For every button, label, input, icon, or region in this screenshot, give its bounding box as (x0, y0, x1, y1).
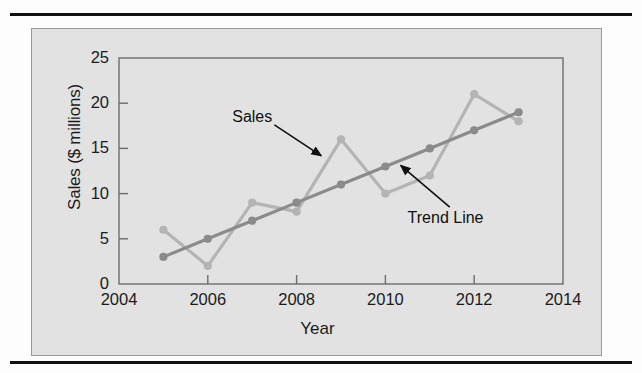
x-tick-label: 2010 (350, 290, 420, 309)
data-point (515, 108, 523, 116)
data-point (248, 217, 256, 225)
data-point (337, 135, 345, 143)
y-tick-label: 25 (63, 48, 109, 67)
data-point (381, 162, 389, 170)
annotation-label-0: Sales (232, 108, 272, 126)
data-point (204, 235, 212, 243)
x-tick-label: 2012 (439, 290, 509, 309)
data-point (470, 90, 478, 98)
plot-frame (119, 58, 563, 284)
x-tick-label: 2004 (84, 290, 154, 309)
data-point (159, 253, 167, 261)
data-point (159, 226, 167, 234)
annotation-label-1: Trend Line (408, 209, 484, 227)
bottom-rule (10, 361, 632, 364)
x-tick-label: 2006 (173, 290, 243, 309)
figure-page: Sales ($ millions) Year 0510152025200420… (0, 0, 642, 373)
data-point (426, 144, 434, 152)
x-tick-label: 2014 (528, 290, 598, 309)
data-point (381, 190, 389, 198)
data-point (515, 117, 523, 125)
data-point (248, 199, 256, 207)
chart-panel: Sales ($ millions) Year 0510152025200420… (31, 28, 602, 356)
annotation-arrow-0 (274, 125, 321, 156)
x-axis-title: Year (32, 319, 603, 339)
y-tick-label: 15 (63, 138, 109, 157)
data-point (293, 199, 301, 207)
top-rule (10, 13, 632, 16)
y-tick-label: 20 (63, 93, 109, 112)
series-line-0 (163, 94, 518, 266)
y-tick-label: 5 (63, 229, 109, 248)
y-tick-label: 10 (63, 184, 109, 203)
annotation-arrow-1 (401, 166, 450, 208)
data-point (470, 126, 478, 134)
data-point (426, 171, 434, 179)
x-tick-label: 2008 (262, 290, 332, 309)
data-point (337, 180, 345, 188)
data-point (293, 208, 301, 216)
data-point (204, 262, 212, 270)
